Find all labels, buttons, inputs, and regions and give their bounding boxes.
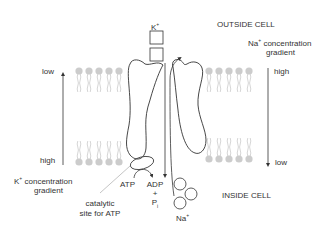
atp-to-adp-arrow [134,169,152,178]
na-ion-label: Na+ [176,211,189,223]
na-high-label: high [274,67,289,76]
membrane-right-top [205,67,252,92]
plus-label: + [145,189,165,198]
atp-label: ATP [120,180,135,189]
na-pathway-arrow [170,58,180,196]
membrane-right-bottom [205,138,252,163]
adp-label: ADP [145,180,165,189]
na-gradient-title-2: gradient [266,48,295,57]
pi-label: Pi [145,198,165,211]
catalytic-site-label: catalytic [70,199,130,208]
k-gradient-title-2: gradient [34,186,63,195]
membrane-left-top [75,67,122,92]
k-ion-label: K+ [151,20,159,32]
sodium-potassium-pump-diagram [0,0,336,231]
inside-cell-label: INSIDE CELL [222,191,271,200]
pump-protein-left [127,60,164,159]
catalytic-site-label-2: site for ATP [65,209,135,218]
na-low-label: low [275,158,287,167]
pump-protein-right [172,59,206,153]
k-high-label: high [40,156,55,165]
k-ion-boxes [150,31,163,61]
k-gradient-title: K+ concentration [14,174,73,186]
membrane-left-bottom [75,141,122,166]
na-ion-circles [174,178,197,209]
k-low-label: low [42,67,54,76]
outside-cell-label: OUTSIDE CELL [217,20,275,29]
na-gradient-title: Na+ concentration [248,36,311,48]
